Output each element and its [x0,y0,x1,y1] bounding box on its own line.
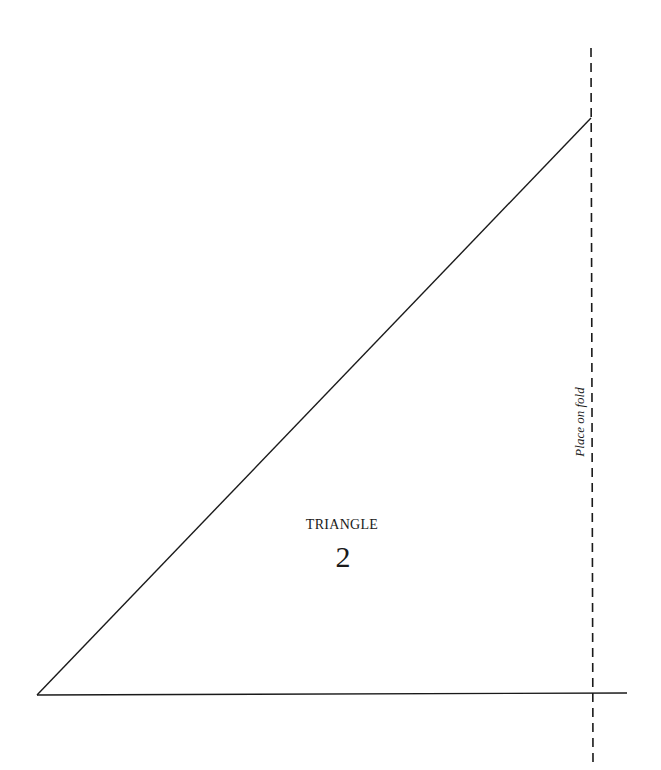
pattern-sheet: TRIANGLE 2 Place on fold [0,0,661,770]
fold-label: Place on fold [572,387,587,458]
hypotenuse-edge [37,118,591,695]
fold-line [591,48,593,762]
base-edge [37,693,627,695]
piece-name: TRIANGLE [306,517,378,532]
piece-number: 2 [336,540,351,573]
